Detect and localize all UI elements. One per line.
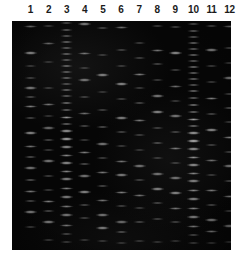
band-lane9-10 bbox=[168, 176, 183, 179]
band-lane9-12 bbox=[168, 207, 183, 210]
band-lane10-18 bbox=[186, 131, 201, 134]
band-lane11-1 bbox=[204, 25, 219, 28]
band-lane6-1 bbox=[114, 26, 129, 29]
band-lane3-17 bbox=[59, 123, 74, 126]
band-lane6-4 bbox=[114, 82, 129, 85]
band-lane6-14 bbox=[114, 231, 129, 234]
band-lane12-1 bbox=[222, 25, 231, 28]
band-lane3-12 bbox=[59, 89, 74, 92]
band-lane2-14 bbox=[41, 210, 56, 213]
band-lane3-6 bbox=[59, 53, 74, 56]
band-lane11-2 bbox=[204, 48, 219, 51]
band-lane10-10 bbox=[186, 78, 201, 81]
band-lane7-12 bbox=[132, 207, 147, 210]
band-lane1-12 bbox=[23, 166, 38, 169]
band-lane11-13 bbox=[204, 218, 219, 221]
band-lane4-4 bbox=[77, 78, 92, 81]
band-lane11-7 bbox=[204, 128, 219, 131]
band-lane7-9 bbox=[132, 164, 147, 167]
band-lane4-2 bbox=[77, 52, 92, 55]
band-lane7-11 bbox=[132, 194, 147, 197]
band-lane3-22 bbox=[59, 161, 74, 164]
lane-label-5: 5 bbox=[95, 3, 111, 17]
band-lane9-9 bbox=[168, 162, 183, 165]
band-lane10-11 bbox=[186, 84, 201, 86]
band-lane5-14 bbox=[95, 240, 110, 242]
band-lane12-2 bbox=[222, 47, 231, 50]
band-lane9-7 bbox=[168, 131, 183, 134]
band-lane2-2 bbox=[41, 42, 56, 45]
band-lane10-30 bbox=[186, 234, 201, 237]
band-lane6-11 bbox=[114, 191, 129, 194]
band-lane9-4 bbox=[168, 85, 183, 88]
band-lane10-22 bbox=[186, 163, 201, 166]
band-lane4-12 bbox=[77, 190, 92, 193]
band-lane2-1 bbox=[41, 25, 56, 28]
band-lane1-4 bbox=[23, 77, 38, 80]
band-lane5-9 bbox=[95, 171, 110, 174]
band-lane1-5 bbox=[23, 86, 38, 89]
band-lane5-8 bbox=[95, 157, 110, 160]
band-lane7-6 bbox=[132, 119, 147, 122]
band-lane10-3 bbox=[186, 36, 201, 38]
band-lane8-6 bbox=[150, 110, 165, 113]
band-lane12-4 bbox=[222, 76, 231, 79]
band-lane2-16 bbox=[41, 239, 56, 242]
band-lane1-6 bbox=[23, 96, 38, 99]
band-lane2-7 bbox=[41, 126, 56, 129]
band-lane3-20 bbox=[59, 145, 74, 148]
lane-number-axis: 123456789101112 bbox=[0, 0, 238, 21]
band-lane12-12 bbox=[222, 195, 231, 198]
band-lane9-13 bbox=[168, 221, 183, 224]
band-lane8-1 bbox=[150, 25, 165, 28]
band-lane8-9 bbox=[150, 157, 165, 160]
band-lane4-15 bbox=[77, 239, 92, 241]
band-lane10-13 bbox=[186, 97, 201, 100]
band-lane5-13 bbox=[95, 226, 110, 229]
band-lane3-19 bbox=[59, 137, 74, 141]
lane-label-6: 6 bbox=[113, 3, 129, 17]
band-lane10-14 bbox=[186, 104, 201, 107]
band-lane12-9 bbox=[222, 151, 231, 154]
band-lane11-3 bbox=[204, 65, 219, 68]
band-lane4-6 bbox=[77, 112, 92, 115]
band-lane12-7 bbox=[222, 121, 231, 124]
band-lane11-14 bbox=[204, 230, 219, 233]
band-lane3-13 bbox=[59, 95, 74, 98]
band-lane2-5 bbox=[41, 103, 56, 106]
band-lane5-4 bbox=[95, 91, 110, 93]
band-lane10-28 bbox=[186, 215, 201, 218]
band-lane8-3 bbox=[150, 63, 165, 66]
band-lane6-10 bbox=[114, 173, 129, 176]
lane-label-10: 10 bbox=[185, 3, 201, 17]
band-lane10-25 bbox=[186, 189, 201, 192]
band-lane5-5 bbox=[95, 109, 110, 112]
band-lane5-10 bbox=[95, 185, 110, 188]
band-lane12-8 bbox=[222, 136, 231, 139]
band-lane4-8 bbox=[77, 139, 92, 142]
band-lane7-4 bbox=[132, 87, 147, 90]
band-lane10-1 bbox=[186, 23, 201, 26]
band-lane10-23 bbox=[186, 172, 201, 175]
band-lane7-8 bbox=[132, 149, 147, 151]
band-lane9-5 bbox=[168, 100, 183, 103]
band-lane10-20 bbox=[186, 147, 201, 150]
band-lane8-5 bbox=[150, 94, 165, 97]
band-lane10-5 bbox=[186, 48, 201, 50]
band-lane1-9 bbox=[23, 131, 38, 134]
band-lane4-9 bbox=[77, 151, 92, 154]
band-lane10-8 bbox=[186, 66, 201, 69]
band-lane12-5 bbox=[222, 93, 231, 96]
band-lane9-1 bbox=[168, 26, 183, 29]
band-lane10-29 bbox=[186, 225, 201, 228]
band-lane10-27 bbox=[186, 207, 201, 210]
band-lane11-6 bbox=[204, 113, 219, 116]
band-lane2-4 bbox=[41, 87, 56, 90]
band-lane11-5 bbox=[204, 97, 219, 100]
band-lane10-31 bbox=[186, 242, 201, 245]
band-lane11-8 bbox=[204, 144, 219, 147]
band-lane7-13 bbox=[132, 221, 147, 224]
band-lane10-2 bbox=[186, 30, 201, 33]
band-lane9-2 bbox=[168, 51, 183, 54]
gel-electrophoresis-figure: 123456789101112 bbox=[0, 0, 238, 255]
